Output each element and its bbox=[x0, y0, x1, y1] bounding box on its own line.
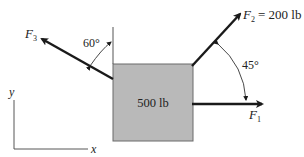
force-diagram: 500 lb 60° F3 F2= 200 lb 45° F1 y x bbox=[0, 0, 304, 157]
angle-45-arc bbox=[218, 44, 246, 100]
force-f2-arrow bbox=[192, 14, 240, 66]
force-f2-label: F2= 200 lb bbox=[242, 7, 301, 24]
force-f3-label: F3 bbox=[24, 26, 37, 43]
force-f1-label: F1 bbox=[248, 107, 261, 124]
block-weight-label: 500 lb bbox=[137, 96, 169, 110]
angle-45-label: 45° bbox=[242, 58, 259, 72]
angle-60-label: 60° bbox=[83, 36, 100, 50]
y-axis-label: y bbox=[8, 85, 15, 99]
x-axis-label: x bbox=[90, 142, 97, 156]
force-f3-arrow bbox=[42, 39, 113, 79]
